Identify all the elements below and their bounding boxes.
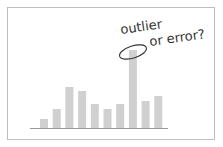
bar-7	[116, 104, 124, 128]
bar-chart: outlier or error?	[0, 0, 223, 147]
bars-group	[40, 50, 162, 128]
bar-1	[40, 119, 48, 128]
bar-10	[154, 96, 162, 128]
bar-5	[91, 104, 99, 128]
bar-8	[129, 50, 137, 128]
bar-3	[65, 87, 73, 128]
bar-9	[142, 101, 150, 128]
bar-6	[104, 109, 112, 128]
bar-2	[53, 109, 61, 128]
bar-4	[78, 91, 86, 128]
